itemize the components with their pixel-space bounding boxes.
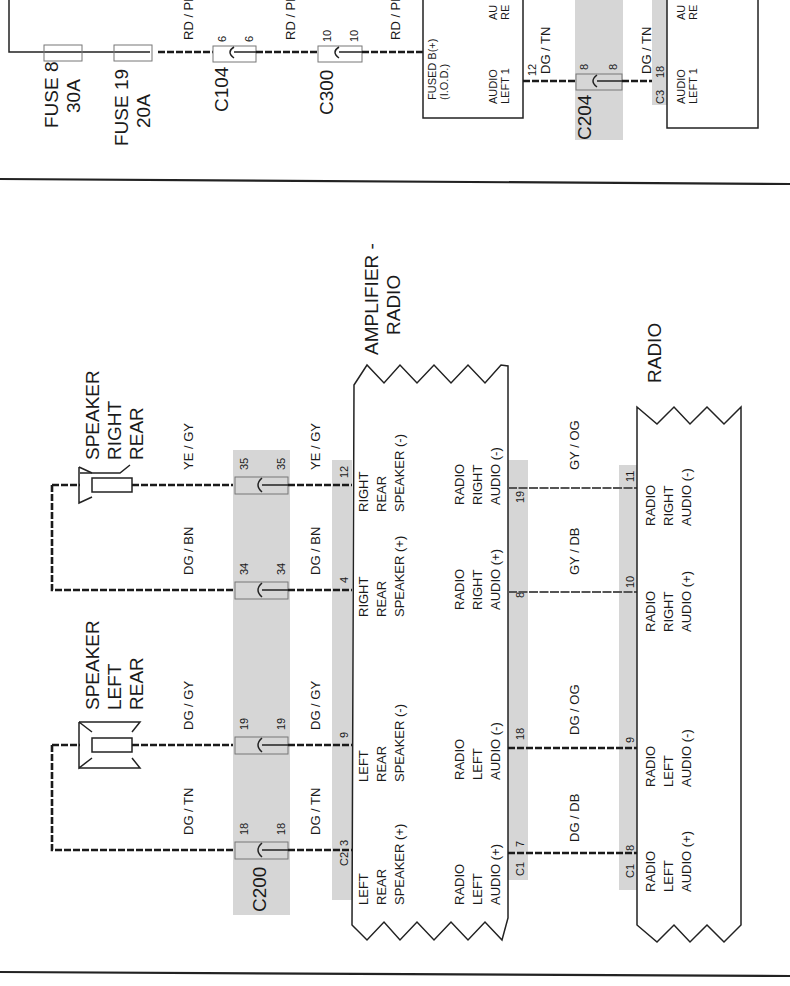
- pin-label: 11: [624, 471, 636, 482]
- speaker-label-line: SPEAKER: [82, 620, 103, 710]
- amplifier-radio-module: AMPLIFIER - RADIO RIGHT REAR SPEAKER (-)…: [352, 243, 508, 940]
- pin-label: AUDIO (-): [679, 468, 694, 526]
- pin-fused-iod: (I.O.D.): [438, 64, 450, 100]
- bottom-section: SPEAKER RIGHT REAR SPEAKER LEFT REAR: [52, 243, 741, 942]
- pin-label: AUDIO (-): [488, 722, 503, 780]
- pin-label: RIGHT: [356, 472, 371, 513]
- wire-color-label: DG / TN: [639, 27, 654, 74]
- pin-label: LEFT: [356, 750, 371, 782]
- c200-band: [233, 450, 290, 915]
- wire-color-label: DG / TN: [308, 788, 323, 835]
- pin-label: RADIO: [452, 569, 467, 610]
- pin-clipped-line1: AU: [675, 5, 687, 20]
- pin-label: 8: [624, 845, 636, 851]
- power-feed-wire: [9, 0, 150, 52]
- speaker-label-line: SPEAKER: [82, 370, 103, 460]
- pin-label: LEFT: [661, 755, 676, 787]
- pin-clipped-line2: RE: [499, 5, 511, 20]
- pin-label: LEFT: [661, 860, 676, 892]
- c300-pin-left: 10: [321, 30, 333, 42]
- pin-label: 9: [624, 737, 636, 743]
- c104-connector: [213, 46, 256, 62]
- section-divider-top: [0, 179, 790, 184]
- speaker-label-line: REAR: [126, 407, 147, 460]
- pin-label: SPEAKER (-): [392, 704, 407, 782]
- wire-color-label: DG / GY: [181, 681, 196, 730]
- c204-label: C204: [574, 94, 595, 140]
- pin-label: 18: [238, 823, 250, 835]
- wire-color-label: YE / GY: [308, 423, 323, 470]
- wire-color-label: DG / BN: [181, 527, 196, 575]
- wire-color-label: GY / DB: [567, 528, 582, 575]
- c1-band-amp: [508, 460, 528, 880]
- pin-label: RIGHT: [470, 465, 485, 506]
- fuse-8-label: FUSE 8: [41, 61, 62, 128]
- wire-color-label: DG / DB: [567, 794, 582, 842]
- wire-color-label: RD / PK: [181, 0, 196, 40]
- pin-label: 19: [275, 718, 287, 730]
- pin-label: RADIO: [452, 464, 467, 505]
- speaker-label-line: LEFT: [104, 663, 125, 710]
- pin-audio-left-1-line2: LEFT 1: [499, 68, 511, 104]
- wire-color-label: DG / OG: [567, 684, 582, 735]
- pin-label: RADIO: [643, 485, 658, 526]
- amplifier-title: RADIO: [383, 275, 404, 335]
- pin-label: REAR: [374, 869, 389, 905]
- connector-pin-icon: [230, 47, 234, 58]
- pin-label: LEFT: [356, 873, 371, 905]
- speaker-magnet-icon: [92, 478, 132, 492]
- pin-label: AUDIO (-): [679, 729, 694, 787]
- pin-label: REAR: [374, 746, 389, 782]
- pin-label: RIGHT: [470, 570, 485, 611]
- c300-connector: [318, 46, 362, 62]
- speaker-label-line: RIGHT: [104, 401, 125, 461]
- pin-label: 19: [514, 491, 526, 503]
- fuse-8-symbol: [44, 45, 82, 61]
- pin-label: 9: [338, 732, 350, 738]
- pin-label: 34: [275, 563, 287, 575]
- c104-pin-left: 6: [216, 36, 228, 42]
- pin-label: AUDIO (+): [679, 831, 694, 892]
- wire-color-label: RD / PK: [388, 0, 403, 40]
- wire-color-label: YE / GY: [181, 423, 196, 470]
- c300-pin-right: 10: [348, 30, 360, 42]
- fuse-8-rating: 30A: [63, 79, 84, 113]
- pin-label: RIGHT: [356, 577, 371, 618]
- wire-color-label: DG / BN: [308, 527, 323, 575]
- pin-label: 18: [275, 823, 287, 835]
- amplifier-title: AMPLIFIER -: [361, 243, 382, 355]
- c2-band: [332, 460, 352, 900]
- pin-label: 19: [238, 718, 250, 730]
- pin-label: RIGHT: [661, 592, 676, 633]
- speaker-magnet-icon: [92, 738, 132, 752]
- speaker-right-rear: SPEAKER RIGHT REAR: [79, 370, 147, 503]
- c3-band: [652, 0, 667, 105]
- c300-label: C300: [316, 70, 337, 115]
- wire-color-label: GY / OG: [567, 420, 582, 470]
- connector-pin-icon: [335, 47, 339, 58]
- pin-clipped-line2: RE: [687, 5, 699, 20]
- c104-label: C104: [211, 66, 232, 112]
- wire-color-label: DG / TN: [538, 27, 553, 74]
- wire-color-label: DG / GY: [308, 681, 323, 730]
- fuse-19-label: FUSE 19: [111, 69, 132, 146]
- pin-label: AUDIO (+): [488, 844, 503, 905]
- pin-label: 7: [514, 841, 526, 847]
- wire-color-label: DG / TN: [181, 788, 196, 835]
- amplifier-box: [352, 365, 508, 940]
- pin-clipped-line1: AU: [487, 5, 499, 20]
- pin-audio-left-1-line1: AUDIO: [675, 69, 687, 104]
- c1-label: C1: [624, 864, 636, 878]
- pin-label: AUDIO (-): [488, 447, 503, 505]
- pin-label: SPEAKER (+): [392, 536, 407, 617]
- pin-label: RIGHT: [661, 486, 676, 527]
- pin-label: RADIO: [643, 746, 658, 787]
- radio-module: RADIO RADIO RIGHT AUDIO (-) RADIO RIGHT …: [637, 323, 741, 942]
- pin-fused-b-plus: FUSED B(+): [426, 39, 438, 100]
- pin-label: 18: [514, 728, 526, 740]
- pin-label: AUDIO (+): [679, 571, 694, 632]
- pin-audio-left-1-line1: AUDIO: [487, 69, 499, 104]
- pin-label: LEFT: [470, 873, 485, 905]
- pin-label: RADIO: [643, 851, 658, 892]
- pin-label: RADIO: [643, 591, 658, 632]
